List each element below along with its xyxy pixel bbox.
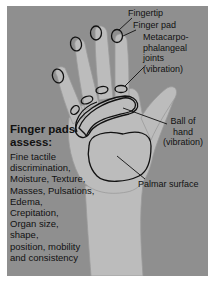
side-panel-line: Moisture, Texture, — [10, 173, 94, 184]
side-panel-line: Edema, — [10, 196, 94, 207]
label-mcp-joints: Metacarpo- phalangeal joints (vibration) — [143, 32, 189, 74]
label-palmar-surface: Palmar surface — [138, 179, 199, 190]
side-panel-line: Organ size, — [10, 218, 94, 229]
side-panel-line: Fine tactile — [10, 151, 94, 162]
finger-pad-leader — [123, 30, 136, 36]
label-finger-pad: Finger pad — [133, 20, 176, 31]
side-panel-line: and consistency — [10, 252, 94, 263]
middle-finger — [95, 26, 113, 100]
side-panel-line: discrimination, — [10, 162, 94, 173]
hand-diagram: Fingertip Finger pad Metacarpo- phalange… — [7, 6, 208, 276]
side-panel-line: Masses, Pulsations, — [10, 185, 94, 196]
side-panel-line: position, mobility — [10, 241, 94, 252]
label-ball-of-hand: Ball of hand (vibration) — [163, 116, 203, 148]
side-panel-list: Fine tactile discrimination, Moisture, T… — [10, 151, 94, 263]
side-panel-line: shape, — [10, 229, 94, 240]
label-fingertip: Fingertip — [128, 8, 163, 19]
fingertip-leader — [119, 18, 132, 30]
side-panel-line: Crepitation, — [10, 207, 94, 218]
side-panel-title: Finger pads assess: — [10, 123, 75, 149]
